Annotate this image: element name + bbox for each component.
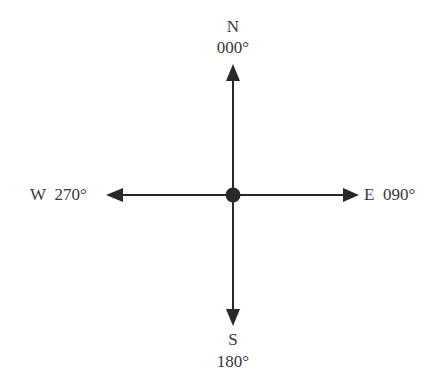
north-letter: N [203,17,263,36]
west-arrow-icon [106,188,123,202]
west-letter: W [30,185,46,204]
south-bearing: 180° [203,352,263,371]
west-label: W 270° [30,185,87,204]
center-dot-icon [226,188,241,203]
south-letter: S [203,330,263,349]
north-arrow-icon [226,64,240,81]
east-bearing: 090° [383,185,415,204]
east-label: E 090° [364,185,415,204]
west-bearing: 270° [55,185,87,204]
north-bearing: 000° [203,38,263,57]
south-arrow-icon [226,309,240,326]
east-letter: E [364,185,374,204]
east-arrow-icon [343,188,359,202]
